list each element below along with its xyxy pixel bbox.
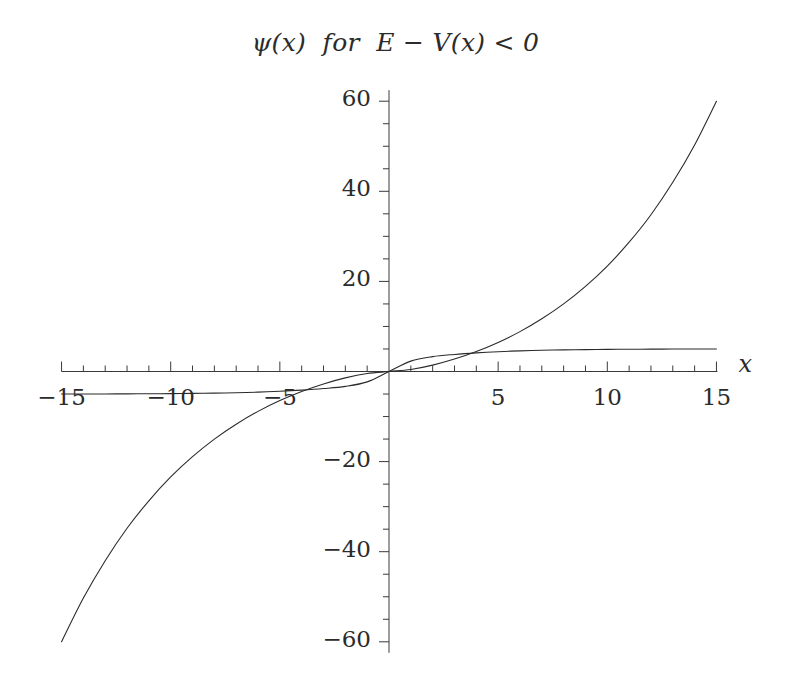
x-tick-label: 5 — [458, 384, 538, 410]
plot-figure: ψ(x) for E − V(x) < 0 −15−10−55101560402… — [0, 0, 791, 691]
y-tick-label: 60 — [281, 85, 371, 111]
x-tick-label: −5 — [240, 384, 320, 410]
y-tick-label: −60 — [281, 626, 371, 652]
y-tick-label: 20 — [281, 265, 371, 291]
x-tick-label: 10 — [567, 384, 647, 410]
x-tick-label: −15 — [22, 384, 102, 410]
y-tick-label: 40 — [281, 175, 371, 201]
x-tick-label: 15 — [676, 384, 756, 410]
y-tick-label: −20 — [281, 446, 371, 472]
x-axis-name-label: x — [738, 350, 752, 378]
x-tick-label: −10 — [131, 384, 211, 410]
y-tick-label: −40 — [281, 536, 371, 562]
plot-canvas — [0, 0, 791, 691]
